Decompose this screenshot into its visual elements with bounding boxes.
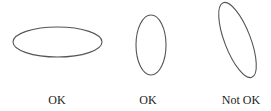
- tilted-ellipse: [211, 0, 264, 82]
- wide-ellipse: [13, 27, 102, 57]
- label-tilted-ellipse: Not OK: [222, 93, 260, 107]
- label-tall-ellipse: OK: [139, 93, 156, 107]
- tall-ellipse: [136, 15, 166, 75]
- label-wide-ellipse: OK: [48, 93, 65, 107]
- ellipse-orientation-diagram: OK OK Not OK: [0, 0, 271, 111]
